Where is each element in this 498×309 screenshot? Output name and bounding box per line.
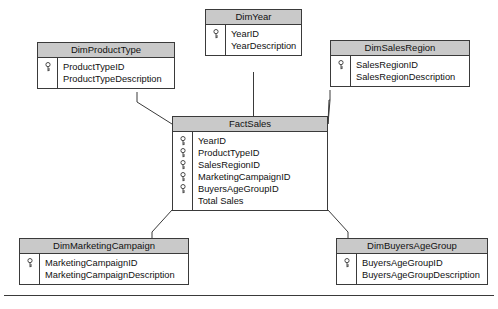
key-icon (212, 29, 220, 39)
key-slot (179, 147, 187, 159)
entity-dim-buyers-age-group[interactable]: DimBuyersAgeGroup BuyersAgeGroupID Buyer… (336, 238, 488, 285)
field-label: SalesRegionDescription (356, 71, 465, 83)
key-slot (44, 61, 52, 73)
entity-title: DimProductType (38, 43, 174, 58)
key-icon (179, 136, 187, 146)
entity-dim-sales-region[interactable]: DimSalesRegion SalesRegionID SalesRegion… (330, 40, 470, 87)
entity-title: DimBuyersAgeGroup (337, 239, 487, 254)
key-icon (179, 184, 187, 194)
key-icon (26, 258, 34, 268)
key-icon (179, 172, 187, 182)
connector-dim-marketing-campaign (152, 210, 172, 238)
key-column (38, 58, 58, 88)
diagram-canvas: DimYear YearID YearDescription DimProduc… (0, 0, 498, 309)
key-column (20, 254, 40, 284)
key-slot (179, 171, 187, 183)
key-column (173, 132, 193, 210)
field-label: SalesRegionID (198, 159, 323, 171)
field-label: YearID (231, 28, 297, 40)
key-icon (179, 160, 187, 170)
field-label: YearID (198, 135, 323, 147)
field-label: BuyersAgeGroupID (362, 257, 483, 269)
connector-dim-sales-region-seg (328, 100, 330, 124)
key-slot (179, 183, 187, 195)
field-label: YearDescription (231, 40, 297, 52)
key-icon (44, 62, 52, 72)
entity-dim-marketing-campaign[interactable]: DimMarketingCampaign MarketingCampaignID… (19, 238, 189, 285)
field-column: YearID YearDescription (226, 25, 301, 55)
field-column: BuyersAgeGroupID BuyersAgeGroupDescripti… (357, 254, 487, 284)
key-column (206, 25, 226, 55)
key-slot (26, 257, 34, 269)
field-column: SalesRegionID SalesRegionDescription (351, 56, 469, 86)
connector-dim-product-type (137, 92, 172, 124)
entity-title: DimYear (206, 10, 301, 25)
field-column: YearID ProductTypeID SalesRegionID Marke… (193, 132, 327, 210)
entity-body: MarketingCampaignID MarketingCampaignDes… (20, 254, 188, 284)
entity-dim-product-type[interactable]: DimProductType ProductTypeID ProductType… (37, 42, 175, 89)
entity-title: FactSales (173, 117, 327, 132)
key-column (337, 254, 357, 284)
key-slot (337, 59, 345, 71)
field-column: MarketingCampaignID MarketingCampaignDes… (40, 254, 188, 284)
field-label: MarketingCampaignDescription (45, 269, 184, 281)
entity-title: DimMarketingCampaign (20, 239, 188, 254)
entity-dim-year[interactable]: DimYear YearID YearDescription (205, 9, 302, 56)
entity-body: ProductTypeID ProductTypeDescription (38, 58, 174, 88)
entity-title: DimSalesRegion (331, 41, 469, 56)
field-label: BuyersAgeGroupID (198, 183, 323, 195)
connector-dim-sales-region (328, 90, 330, 124)
field-label: MarketingCampaignID (45, 257, 184, 269)
key-slot (179, 159, 187, 171)
entity-body: YearID YearDescription (206, 25, 301, 55)
connector-dim-buyers-age-group (328, 210, 348, 238)
key-slot (212, 28, 220, 40)
field-label: ProductTypeID (198, 147, 323, 159)
entity-body: SalesRegionID SalesRegionDescription (331, 56, 469, 86)
key-slot (179, 135, 187, 147)
key-slot (343, 257, 351, 269)
field-label: SalesRegionID (356, 59, 465, 71)
footer-divider (4, 295, 494, 296)
key-column (331, 56, 351, 86)
field-label: ProductTypeID (63, 61, 170, 73)
field-label: ProductTypeDescription (63, 73, 170, 85)
entity-body: YearID ProductTypeID SalesRegionID Marke… (173, 132, 327, 210)
key-icon (337, 60, 345, 70)
key-icon (179, 148, 187, 158)
key-icon (343, 258, 351, 268)
entity-body: BuyersAgeGroupID BuyersAgeGroupDescripti… (337, 254, 487, 284)
entity-fact-sales[interactable]: FactSales (172, 116, 328, 211)
field-label: Total Sales (198, 195, 323, 207)
field-label: BuyersAgeGroupDescription (362, 269, 483, 281)
field-label: MarketingCampaignID (198, 171, 323, 183)
field-column: ProductTypeID ProductTypeDescription (58, 58, 174, 88)
